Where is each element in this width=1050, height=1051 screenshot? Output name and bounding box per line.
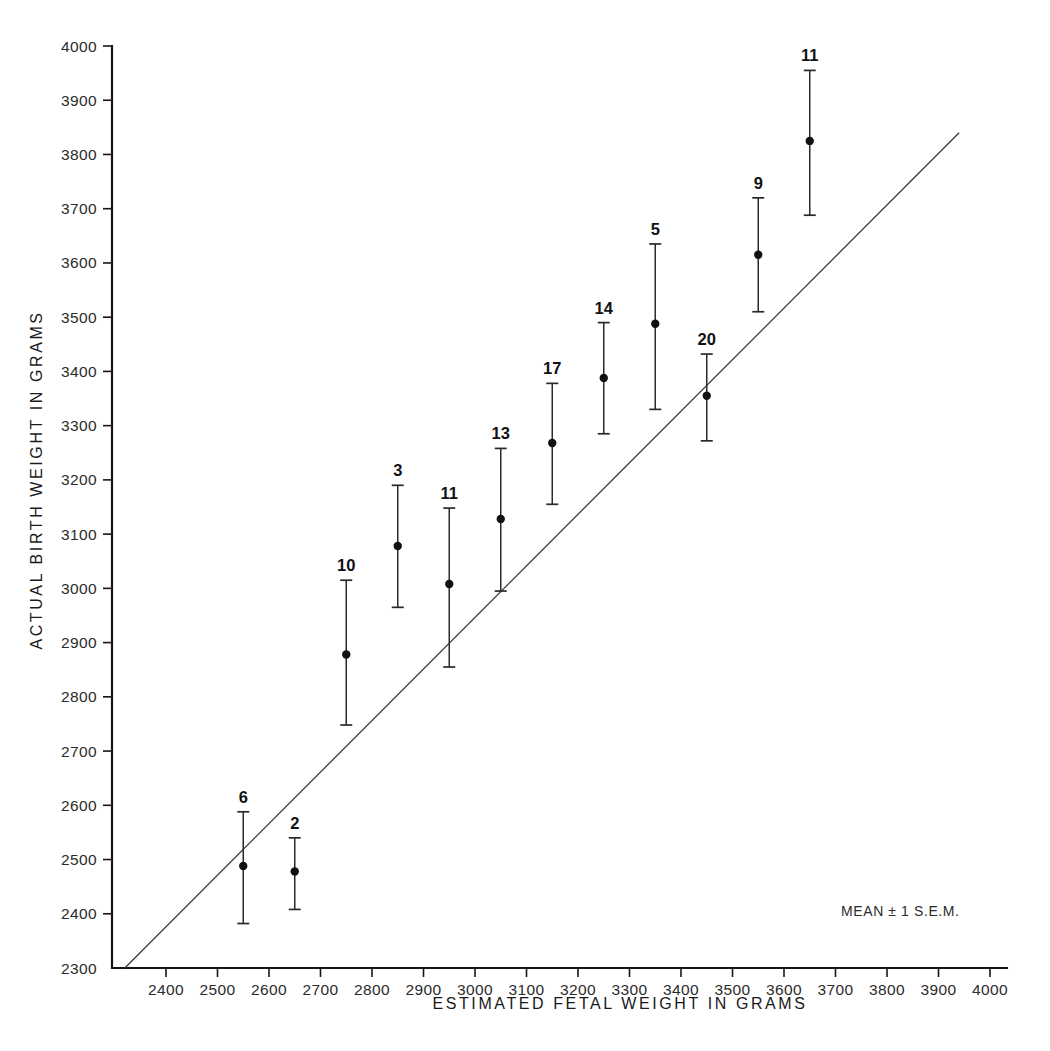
x-tick-label: 3900	[920, 981, 956, 998]
y-tick-label: 3000	[61, 580, 97, 597]
mean-point-marker	[239, 862, 247, 870]
data-point-group: 14	[595, 299, 614, 434]
data-point-group: 20	[698, 330, 716, 441]
x-tick-label: 2800	[354, 981, 390, 998]
data-point-group: 17	[543, 359, 561, 504]
x-tick-label: 2600	[251, 981, 287, 998]
point-count-label: 6	[239, 788, 248, 806]
figure-page: 2300240025002600270028002900300031003200…	[0, 0, 1050, 1051]
point-count-label: 11	[441, 484, 458, 502]
data-point-group: 11	[441, 484, 458, 667]
point-count-label: 9	[754, 174, 763, 192]
y-tick-label: 2600	[61, 797, 97, 814]
x-axis-ticks	[166, 968, 990, 977]
scatter-chart: 2300240025002600270028002900300031003200…	[0, 0, 1050, 1051]
data-point-group: 9	[752, 174, 764, 312]
y-tick-label: 2400	[61, 905, 97, 922]
y-tick-label: 3400	[61, 363, 97, 380]
point-count-label: 10	[337, 556, 355, 574]
mean-point-marker	[497, 515, 505, 523]
axis-lines	[112, 46, 1007, 968]
data-point-group: 13	[492, 424, 510, 591]
point-count-label: 2	[290, 814, 299, 832]
y-tick-label: 3600	[61, 254, 97, 271]
y-axis-title: ACTUAL BIRTH WEIGHT IN GRAMS	[28, 310, 45, 649]
x-tick-label: 4000	[972, 981, 1008, 998]
point-count-label: 20	[698, 330, 716, 348]
identity-line	[125, 133, 959, 968]
y-tick-label: 3700	[61, 200, 97, 217]
point-count-label: 5	[651, 220, 660, 238]
mean-point-marker	[445, 580, 453, 588]
y-tick-label: 2900	[61, 634, 97, 651]
legend-note: MEAN ± 1 S.E.M.	[841, 903, 960, 919]
mean-point-marker	[342, 650, 350, 658]
data-series-group: 6210311131714520911	[237, 46, 818, 923]
y-tick-label: 2300	[61, 960, 97, 977]
mean-point-marker	[703, 392, 711, 400]
mean-point-marker	[394, 542, 402, 550]
y-tick-label: 3100	[61, 526, 97, 543]
point-count-label: 11	[801, 46, 818, 64]
y-tick-label: 4000	[61, 38, 97, 55]
x-axis-title: ESTIMATED FETAL WEIGHT IN GRAMS	[432, 995, 807, 1012]
point-count-label: 17	[543, 359, 561, 377]
data-point-group: 10	[337, 556, 355, 725]
data-point-group: 11	[801, 46, 818, 215]
y-tick-label: 3200	[61, 471, 97, 488]
mean-point-marker	[291, 867, 299, 875]
mean-point-marker	[754, 251, 762, 259]
mean-point-marker	[548, 439, 556, 447]
y-tick-label: 3500	[61, 309, 97, 326]
point-count-label: 13	[492, 424, 510, 442]
plot-axes: 2300240025002600270028002900300031003200…	[61, 38, 1008, 999]
y-tick-label: 2700	[61, 743, 97, 760]
y-tick-label: 3300	[61, 417, 97, 434]
y-axis-tick-labels: 2300240025002600270028002900300031003200…	[61, 38, 97, 977]
data-point-group: 6	[237, 788, 249, 924]
x-tick-label: 2700	[302, 981, 338, 998]
mean-point-marker	[600, 374, 608, 382]
x-tick-label: 2400	[148, 981, 184, 998]
data-point-group: 5	[649, 220, 661, 409]
y-tick-label: 3800	[61, 146, 97, 163]
y-axis-ticks	[103, 46, 112, 914]
y-tick-label: 2500	[61, 851, 97, 868]
y-tick-label: 2800	[61, 688, 97, 705]
data-point-group: 2	[289, 814, 301, 910]
point-count-label: 14	[595, 299, 614, 317]
x-tick-label: 3700	[817, 981, 853, 998]
mean-point-marker	[651, 319, 659, 327]
point-count-label: 3	[393, 461, 402, 479]
mean-point-marker	[806, 137, 814, 145]
x-tick-label: 3800	[869, 981, 905, 998]
data-point-group: 3	[392, 461, 404, 607]
x-tick-label: 2500	[199, 981, 235, 998]
y-tick-label: 3900	[61, 92, 97, 109]
